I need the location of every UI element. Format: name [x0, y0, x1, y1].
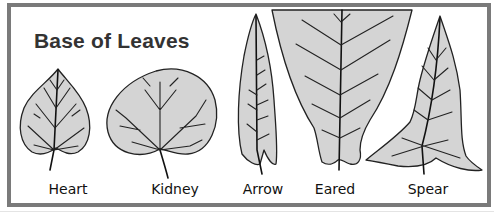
leaf-label-arrow: Arrow: [243, 181, 284, 197]
leaf-label-kidney: Kidney: [151, 181, 199, 197]
kidney-leaf-illustration: [107, 69, 217, 178]
bottom-divider: [0, 211, 494, 212]
arrow-leaf-illustration: [238, 14, 276, 174]
leaf-label-eared: Eared: [315, 181, 355, 197]
heart-leaf-illustration: [20, 69, 89, 170]
leaf-label-heart: Heart: [49, 181, 88, 197]
leaf-label-spear: Spear: [408, 181, 449, 197]
